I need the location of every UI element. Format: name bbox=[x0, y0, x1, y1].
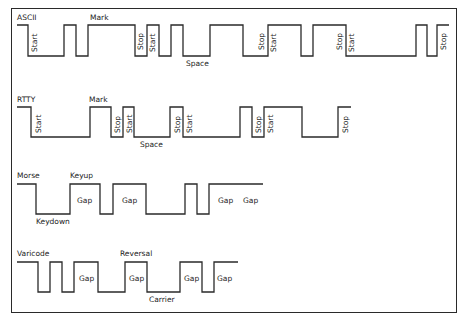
waveform-label: Stop bbox=[254, 116, 263, 133]
waveform-label: ASCII bbox=[17, 13, 37, 22]
waveform-label: Reversal bbox=[120, 249, 152, 258]
waveform-label: Stop bbox=[136, 33, 145, 50]
waveform-diagram: ASCIIMarkSpaceStartStopStartStopStartSto… bbox=[0, 0, 462, 319]
waveform-label: Keyup bbox=[70, 171, 93, 180]
waveform-line bbox=[17, 107, 351, 137]
waveform-line bbox=[17, 262, 238, 292]
waveform-label: Stop bbox=[113, 116, 122, 133]
waveform-label: Gap bbox=[217, 274, 232, 283]
waveform-label: Start bbox=[148, 34, 157, 52]
waveform-label: Start bbox=[266, 115, 275, 133]
waveform-label: Stop bbox=[439, 33, 448, 50]
waveform-label: Space bbox=[140, 140, 163, 149]
waveform-row-morse: MorseKeyupKeydownGapGapGapGap bbox=[17, 171, 263, 226]
waveform-label: Stop bbox=[335, 33, 344, 50]
waveform-label: Morse bbox=[17, 171, 40, 180]
waveform-row-varicode: VaricodeReversalCarrierGapGapGapGap bbox=[17, 249, 238, 304]
waveform-label: RTTY bbox=[17, 95, 36, 104]
waveform-label: Stop bbox=[341, 116, 350, 133]
waveform-label: Gap bbox=[129, 274, 144, 283]
waveform-label: Space bbox=[186, 59, 209, 68]
waveform-label: Gap bbox=[122, 196, 137, 205]
waveform-label: Gap bbox=[77, 196, 92, 205]
waveform-label: Carrier bbox=[149, 295, 176, 304]
waveform-label: Keydown bbox=[36, 217, 70, 226]
waveform-label: Mark bbox=[90, 13, 109, 22]
waveform-label: Start bbox=[34, 115, 43, 133]
waveform-label: Gap bbox=[184, 274, 199, 283]
waveform-label: Start bbox=[347, 34, 356, 52]
waveform-label: Gap bbox=[79, 274, 94, 283]
waveform-label: Start bbox=[185, 115, 194, 133]
waveform-line bbox=[17, 25, 449, 56]
waveform-label: Mark bbox=[89, 95, 108, 104]
waveform-label: Gap bbox=[218, 196, 233, 205]
waveform-label: Stop bbox=[257, 33, 266, 50]
waveform-label: Start bbox=[269, 34, 278, 52]
waveform-label: Start bbox=[30, 34, 39, 52]
waveform-row-ascii: ASCIIMarkSpaceStartStopStartStopStartSto… bbox=[17, 13, 449, 68]
waveform-label: Gap bbox=[243, 196, 258, 205]
waveform-label: Start bbox=[125, 115, 134, 133]
waveform-row-rtty: RTTYMarkSpaceStartStopStartStopStartStop… bbox=[17, 95, 351, 149]
waveform-label: Varicode bbox=[17, 249, 50, 258]
waveform-label: Stop bbox=[173, 116, 182, 133]
